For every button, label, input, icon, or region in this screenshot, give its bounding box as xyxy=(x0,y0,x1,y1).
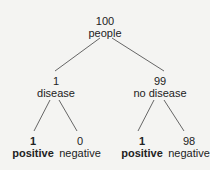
no-disease-negative-leaf: 98 negative xyxy=(168,135,210,159)
root-count: 100 xyxy=(88,15,121,27)
leaf-label: positive xyxy=(12,147,54,159)
disease-label: disease xyxy=(37,87,75,99)
leaf-count: 1 xyxy=(12,135,54,147)
no-disease-label: no disease xyxy=(133,87,186,99)
edge-nodisease-positive xyxy=(138,100,154,131)
no-disease-count: 99 xyxy=(133,75,186,87)
no-disease-positive-leaf: 1 positive xyxy=(121,135,163,159)
leaf-label: negative xyxy=(168,147,210,159)
disease-negative-leaf: 0 negative xyxy=(59,135,101,159)
edge-disease-negative xyxy=(59,100,77,131)
disease-positive-leaf: 1 positive xyxy=(12,135,54,159)
edge-disease-positive xyxy=(34,100,50,131)
leaf-count: 0 xyxy=(59,135,101,147)
disease-node: 1 disease xyxy=(37,75,75,99)
no-disease-node: 99 no disease xyxy=(133,75,186,99)
root-label: people xyxy=(88,27,121,39)
leaf-count: 98 xyxy=(168,135,210,147)
edge-nodisease-negative xyxy=(164,100,184,131)
edge-root-no-disease xyxy=(112,38,164,71)
leaf-count: 1 xyxy=(121,135,163,147)
disease-count: 1 xyxy=(37,75,75,87)
leaf-label: negative xyxy=(59,147,101,159)
edge-root-disease xyxy=(55,38,100,71)
leaf-label: positive xyxy=(121,147,163,159)
root-node: 100 people xyxy=(88,15,121,39)
